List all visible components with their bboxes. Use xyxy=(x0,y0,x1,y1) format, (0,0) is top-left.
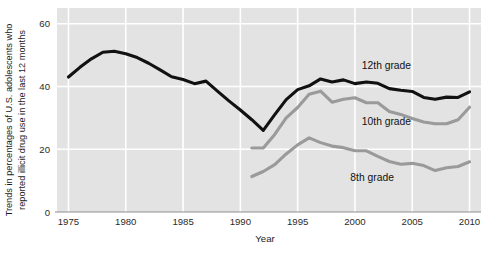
series-label-8th-grade: 8th grade xyxy=(350,172,394,183)
x-tick-label-2000: 2000 xyxy=(344,216,365,227)
x-tick-label-1985: 1985 xyxy=(172,216,193,227)
x-tick-label-1990: 1990 xyxy=(230,216,251,227)
chart-figure: Trends in percentages of U.S. adolescent… xyxy=(0,0,488,259)
plot-background xyxy=(57,8,481,212)
x-tick-label-2010: 2010 xyxy=(459,216,480,227)
x-tick-label-1980: 1980 xyxy=(115,216,136,227)
y-tick-label-20: 20 xyxy=(39,144,50,155)
y-axis-label-line-2: reported illicit drug use in the last 12… xyxy=(16,4,29,236)
y-tick-label-40: 40 xyxy=(39,81,50,92)
series-label-12th-grade: 12th grade xyxy=(362,60,412,71)
y-axis-label-line-1: Trends in percentages of U.S. adolescent… xyxy=(3,4,16,236)
x-tick-label-1975: 1975 xyxy=(58,216,79,227)
series-label-10th-grade: 10th grade xyxy=(362,116,412,127)
x-tick-label-2005: 2005 xyxy=(402,216,423,227)
y-tick-label-0: 0 xyxy=(45,207,50,218)
x-tick-label-1995: 1995 xyxy=(287,216,308,227)
y-tick-label-60: 60 xyxy=(39,18,50,29)
x-axis-title: Year xyxy=(255,233,275,244)
line-chart-plot: 020406019751980198519901995200020052010Y… xyxy=(0,0,488,259)
